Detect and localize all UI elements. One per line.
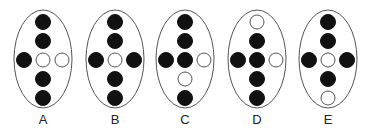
dot-upper-filled: [36, 34, 51, 49]
dot-ellipse-figure: [293, 0, 363, 112]
option-d[interactable]: D: [222, 0, 292, 137]
dot-bottom-empty: [321, 91, 335, 105]
dot-top-empty: [250, 15, 264, 29]
dot-center-empty: [36, 53, 50, 67]
option-c[interactable]: C: [150, 0, 220, 137]
option-label: A: [8, 112, 78, 127]
dot-top-filled: [108, 15, 123, 30]
dot-center-empty: [321, 53, 335, 67]
dot-ellipse-figure: [8, 0, 78, 112]
dot-center-filled: [250, 53, 265, 68]
dot-left-filled: [302, 53, 317, 68]
dot-right-empty: [197, 53, 211, 67]
option-label: D: [222, 112, 292, 127]
option-label: E: [293, 112, 363, 127]
dot-ellipse-figure: [150, 0, 220, 112]
dot-upper-filled: [321, 34, 336, 49]
dot-right-empty: [269, 53, 283, 67]
dot-ellipse-figure: [222, 0, 292, 112]
option-a[interactable]: A: [8, 0, 78, 137]
dot-bottom-filled: [108, 91, 123, 106]
option-b[interactable]: B: [80, 0, 150, 137]
dot-lower-filled: [36, 72, 51, 87]
dot-upper-filled: [250, 34, 265, 49]
dot-right-empty: [55, 53, 69, 67]
dot-ellipse-figure: [80, 0, 150, 112]
dot-bottom-filled: [36, 91, 51, 106]
dot-center-filled: [178, 53, 193, 68]
dot-left-filled: [17, 53, 32, 68]
dot-left-filled: [159, 53, 174, 68]
option-e[interactable]: E: [293, 0, 363, 137]
dot-right-filled: [127, 53, 142, 68]
dot-top-filled: [178, 15, 193, 30]
dot-bottom-filled: [178, 91, 193, 106]
dot-lower-filled: [250, 72, 265, 87]
option-label: B: [80, 112, 150, 127]
dot-upper-filled: [108, 34, 123, 49]
dot-left-filled: [231, 53, 246, 68]
dot-lower-empty: [178, 72, 192, 86]
dot-top-filled: [321, 15, 336, 30]
dot-lower-filled: [321, 72, 336, 87]
dot-upper-filled: [178, 34, 193, 49]
dot-top-filled: [36, 15, 51, 30]
dot-left-filled: [89, 53, 104, 68]
option-label: C: [150, 112, 220, 127]
dot-lower-filled: [108, 72, 123, 87]
puzzle-options: A B C D E: [0, 0, 370, 137]
dot-center-empty: [108, 53, 122, 67]
dot-right-filled: [340, 53, 355, 68]
dot-bottom-filled: [250, 91, 265, 106]
